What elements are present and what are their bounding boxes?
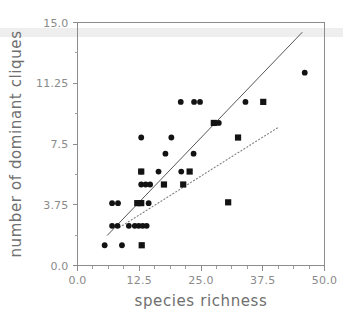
data-point-circle — [191, 151, 197, 157]
y-tick-label: 11.25 — [36, 77, 69, 90]
data-point-circle — [138, 135, 144, 141]
data-point-square — [225, 199, 231, 205]
y-tick-label: 0.0 — [50, 260, 68, 273]
y-tick-label: 15.0 — [43, 17, 68, 30]
data-point-circle — [109, 200, 115, 206]
data-point-circle — [243, 99, 249, 105]
data-point-square — [211, 120, 217, 126]
data-point-square — [235, 134, 241, 140]
data-point-square — [139, 242, 145, 248]
scatter-plot: 0.03.757.511.2515.00.012.525.037.550.0sp… — [0, 0, 343, 315]
x-tick-label: 25.0 — [188, 274, 213, 287]
data-point-square — [161, 181, 167, 187]
data-point-circle — [109, 223, 115, 229]
data-point-circle — [115, 200, 121, 206]
data-points-group — [102, 70, 308, 249]
data-point-circle — [119, 242, 125, 248]
axes-group — [73, 23, 325, 271]
data-point-square — [260, 99, 266, 105]
data-point-circle — [144, 223, 150, 229]
y-tick-label: 7.5 — [50, 138, 68, 151]
figure-container: 0.03.757.511.2515.00.012.525.037.550.0sp… — [0, 0, 343, 315]
x-tick-label: 37.5 — [250, 274, 275, 287]
x-tick-label: 50.0 — [312, 274, 337, 287]
data-point-square — [187, 168, 193, 174]
x-axis-title: species richness — [135, 292, 268, 310]
x-tick-label: 12.5 — [127, 274, 152, 287]
data-point-circle — [197, 99, 203, 105]
data-point-circle — [302, 70, 308, 76]
data-point-circle — [146, 200, 152, 206]
data-point-square — [138, 200, 144, 206]
data-point-circle — [102, 242, 108, 248]
data-point-circle — [178, 99, 184, 105]
data-point-circle — [191, 99, 197, 105]
data-point-circle — [163, 151, 169, 157]
data-point-square — [180, 181, 186, 187]
data-point-square — [138, 168, 144, 174]
data-point-circle — [178, 169, 184, 175]
dotted-regression — [119, 128, 277, 228]
data-point-circle — [126, 223, 132, 229]
y-tick-label: 3.75 — [43, 199, 68, 212]
x-tick-label: 0.0 — [68, 274, 86, 287]
data-point-circle — [168, 135, 174, 141]
data-point-circle — [115, 223, 121, 229]
y-axis-title: number of dominant cliques — [7, 30, 25, 257]
data-point-circle — [147, 182, 153, 188]
data-point-circle — [156, 169, 162, 175]
